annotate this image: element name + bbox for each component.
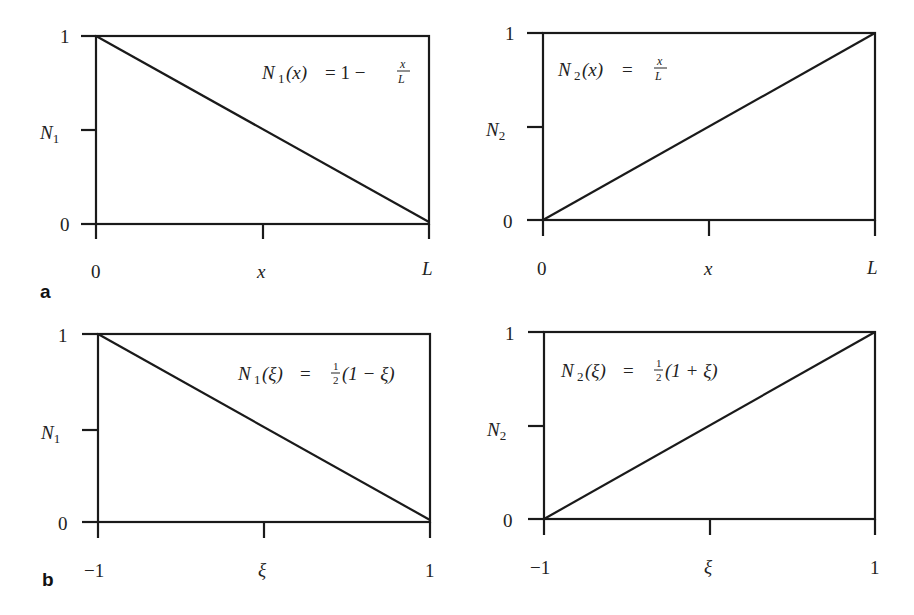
x-tick-label-start: 0 bbox=[91, 261, 101, 282]
y-tick-label-1: 1 bbox=[58, 325, 68, 346]
svg-text:(1 − ξ): (1 − ξ) bbox=[342, 363, 395, 385]
panel-label-a: a bbox=[40, 281, 51, 302]
svg-text:(x): (x) bbox=[582, 59, 603, 81]
svg-text:1: 1 bbox=[656, 357, 662, 369]
figure: 1 0 N1 0 x L N 1 (x) = 1 − x L a 1 0 N2 … bbox=[0, 0, 914, 615]
svg-text:(ξ): (ξ) bbox=[585, 360, 606, 382]
y-tick-label-1: 1 bbox=[505, 323, 515, 344]
y-axis-label: N2 bbox=[485, 119, 505, 143]
svg-text:2: 2 bbox=[656, 371, 662, 383]
x-tick-label-start: −1 bbox=[84, 560, 104, 581]
y-tick-label-1: 1 bbox=[505, 23, 515, 44]
svg-text:1: 1 bbox=[333, 360, 339, 372]
svg-text:(ξ): (ξ) bbox=[262, 363, 283, 385]
x-axis-label: ξ bbox=[704, 556, 713, 577]
x-tick-label-end: 1 bbox=[425, 560, 435, 581]
svg-text:L: L bbox=[654, 69, 662, 83]
panel-label-b: b bbox=[42, 569, 54, 590]
svg-text:N: N bbox=[261, 62, 276, 83]
y-tick-label-1: 1 bbox=[60, 26, 70, 47]
svg-text:=: = bbox=[623, 360, 634, 381]
equation-label: N 2 (ξ) = 1 2 (1 + ξ) bbox=[560, 357, 718, 384]
plot-n2-x bbox=[527, 33, 875, 236]
svg-text:N: N bbox=[557, 59, 572, 80]
shape-function-line bbox=[98, 334, 430, 520]
svg-text:N: N bbox=[560, 360, 575, 381]
x-tick-label-end: L bbox=[421, 258, 433, 279]
equation-label: N 1 (x) = 1 − x L bbox=[261, 57, 410, 86]
y-tick-label-0: 0 bbox=[60, 214, 70, 235]
svg-text:1: 1 bbox=[278, 71, 285, 86]
y-tick-label-0: 0 bbox=[503, 510, 513, 531]
y-axis-label: N1 bbox=[39, 122, 59, 146]
x-tick-label-start: −1 bbox=[530, 557, 550, 578]
x-tick-label-end: 1 bbox=[870, 557, 880, 578]
equation-label: N 2 (x) = x L bbox=[557, 54, 667, 83]
x-axis-label: x bbox=[703, 258, 713, 279]
y-axis-label: N1 bbox=[40, 422, 60, 446]
svg-text:2: 2 bbox=[574, 68, 581, 83]
svg-text:(1 + ξ): (1 + ξ) bbox=[665, 360, 718, 382]
svg-text:=: = bbox=[300, 363, 311, 384]
svg-text:x: x bbox=[399, 57, 406, 71]
svg-text:(x): (x) bbox=[286, 62, 307, 84]
svg-text:= 1 −: = 1 − bbox=[325, 62, 365, 83]
svg-text:2: 2 bbox=[577, 369, 584, 384]
y-tick-label-0: 0 bbox=[503, 211, 513, 232]
x-tick-label-end: L bbox=[866, 257, 878, 278]
svg-text:2: 2 bbox=[333, 374, 339, 386]
svg-text:1: 1 bbox=[254, 372, 261, 387]
x-tick-label-start: 0 bbox=[537, 258, 547, 279]
equation-label: N 1 (ξ) = 1 2 (1 − ξ) bbox=[237, 360, 395, 387]
y-tick-label-0: 0 bbox=[58, 513, 68, 534]
svg-text:L: L bbox=[397, 72, 405, 86]
x-axis-label: x bbox=[256, 261, 266, 282]
x-axis-label: ξ bbox=[258, 559, 267, 580]
plot-n1-x bbox=[81, 36, 429, 239]
svg-text:N: N bbox=[237, 363, 252, 384]
svg-text:x: x bbox=[656, 54, 663, 68]
svg-text:=: = bbox=[622, 59, 633, 80]
y-axis-label: N2 bbox=[486, 419, 506, 443]
